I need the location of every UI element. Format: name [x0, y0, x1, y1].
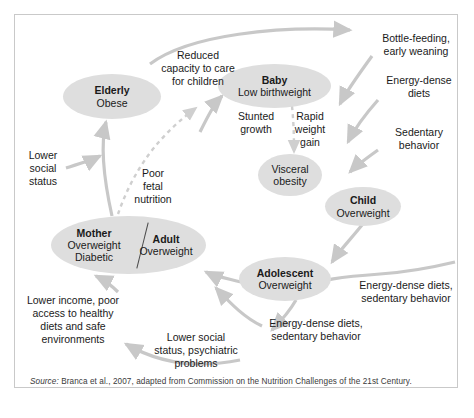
node-adolescent[interactable]: Adolescent Overweight [239, 257, 331, 301]
node-adult[interactable]: Adult Overweight [130, 216, 202, 274]
label-energy-dense-sedentary-bottom: Energy-dense diets, sedentary behavior [258, 317, 374, 343]
node-adolescent-subtitle: Overweight [258, 279, 311, 291]
node-adolescent-title: Adolescent [257, 267, 314, 279]
node-baby-title: Baby [262, 74, 288, 86]
label-lower-social-psychiatric: Lower social status, psychiatric problem… [148, 331, 244, 370]
node-adult-subtitle: Overweight [139, 245, 192, 257]
node-split-container: Mother Overweight Diabetic Adult Overwei… [51, 216, 206, 274]
figure-canvas: Elderly Obese Baby Low birthweight Visce… [0, 0, 474, 418]
node-visceral-obesity[interactable]: Visceral obesity [258, 154, 322, 196]
node-child-subtitle: Overweight [336, 207, 389, 219]
node-mother-adult[interactable]: Mother Overweight Diabetic Adult Overwei… [51, 216, 206, 274]
node-child-title: Child [350, 194, 376, 206]
label-stunted-growth: Stunted growth [228, 110, 284, 136]
node-mother[interactable]: Mother Overweight Diabetic [55, 216, 133, 274]
source-text: Branca et al., 2007, adapted from Commis… [59, 377, 412, 386]
node-mother-title: Mother [77, 227, 112, 239]
node-mother-subtitle: Overweight Diabetic [55, 239, 133, 263]
node-visceral-obesity-label: Visceral obesity [258, 163, 322, 187]
node-elderly-subtitle: Obese [97, 97, 128, 109]
node-adult-title: Adult [153, 233, 180, 245]
label-reduced-capacity: Reduced capacity to care for children [146, 49, 250, 88]
label-lower-income: Lower income, poor access to healthy die… [18, 294, 128, 347]
label-poor-fetal-nutrition: Poor fetal nutrition [126, 167, 180, 206]
label-energy-dense-sedentary-right: Energy-dense diets, sedentary behavior [350, 279, 462, 305]
source-label: Source: [30, 377, 59, 386]
label-lower-social-status: Lower social status [17, 149, 69, 188]
label-energy-dense-diets: Energy-dense diets [372, 74, 466, 100]
label-sedentary-behavior: Sedentary behavior [372, 126, 466, 152]
node-child[interactable]: Child Overweight [325, 187, 401, 226]
label-bottle-feeding: Bottle-feeding, early weaning [366, 32, 466, 58]
label-rapid-weight-gain: Rapid weight gain [288, 110, 332, 149]
source-caption: Source: Branca et al., 2007, adapted fro… [30, 377, 450, 386]
node-elderly-title: Elderly [94, 84, 129, 96]
